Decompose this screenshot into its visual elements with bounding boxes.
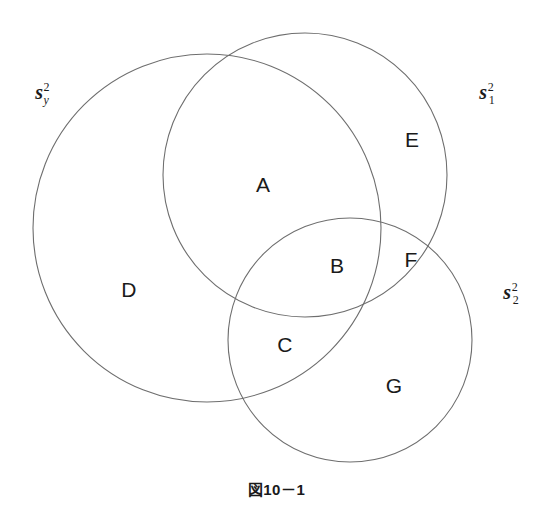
region-label-g: G xyxy=(386,375,403,396)
circle-sy xyxy=(33,54,381,402)
set-label-s1-base: s xyxy=(479,81,487,103)
set-label-sy-base: s xyxy=(35,81,43,103)
region-label-a: A xyxy=(256,174,270,195)
region-label-b: B xyxy=(330,255,344,276)
set-label-s2-base: s xyxy=(503,281,511,303)
venn-circles-canvas xyxy=(0,0,553,509)
set-label-sy: s2y xyxy=(35,82,49,102)
venn-diagram-figure: s2y s21 s22 A B C D E F G 図10－1 xyxy=(0,0,553,509)
figure-caption: 図10－1 xyxy=(0,478,553,499)
set-label-s1: s21 xyxy=(479,82,494,102)
region-label-c: C xyxy=(277,334,292,355)
region-label-d: D xyxy=(121,279,136,300)
circle-s1 xyxy=(163,33,447,317)
set-label-s2: s22 xyxy=(503,282,518,302)
set-label-s1-subscript: 1 xyxy=(489,93,495,107)
set-label-s2-subscript: 2 xyxy=(513,293,519,307)
set-label-sy-subscript: y xyxy=(43,93,48,107)
region-label-e: E xyxy=(405,129,419,150)
circle-s2 xyxy=(228,218,472,462)
region-label-f: F xyxy=(404,249,417,270)
